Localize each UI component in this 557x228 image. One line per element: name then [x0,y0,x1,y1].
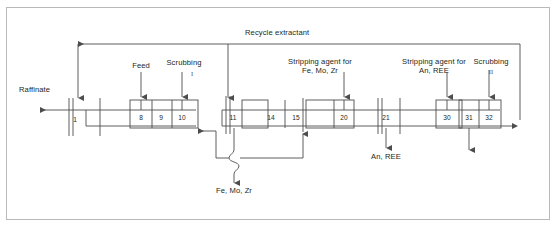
stage-number-20: 20 [340,114,347,121]
stage-number-9: 9 [159,114,163,121]
stage-number-15: 15 [292,114,299,121]
stage-number-8: 8 [139,114,143,121]
stage-number-32: 32 [485,114,492,121]
raffinate-label: Raffinate [19,85,50,94]
stage-number-30: 30 [443,114,450,121]
scrubbing-1-label: Scrubbing [166,58,201,67]
stage-number-21: 21 [382,114,389,121]
fe-mo-zr-product-label: Fe, Mo, Zr [216,186,252,195]
recycle-extractant-label: Recycle extractant [245,28,309,37]
an-ree-product-label: An, REE [371,152,401,161]
stage-number-31: 31 [465,114,472,121]
scrubbing-1-numeral: I [191,70,193,77]
stripping-an-ree-label-line2: An, REE [419,66,449,75]
scrubbing-2-numeral: II [489,68,493,75]
process-flow-diagram-figure: Recycle extractant Raffinate Feed Scrubb… [0,0,557,228]
stripping-fe-mo-zr-label-line2: Fe, Mo, Zr [302,66,338,75]
stage-number-11: 11 [230,114,237,121]
scrubbing-2-label: Scrubbing [473,57,508,66]
stage-box-12-13 [242,100,268,128]
stripping-an-ree-label-line1: Stripping agent for [402,57,466,66]
fe-mo-zr-crossover-jumper [229,150,239,174]
stage-number-10: 10 [178,114,185,121]
feed-label: Feed [132,61,150,70]
stage-number-1: 1 [73,116,77,123]
stripping-fe-mo-zr-label-line1: Stripping agent for [288,57,352,66]
stage-number-14: 14 [267,114,274,121]
